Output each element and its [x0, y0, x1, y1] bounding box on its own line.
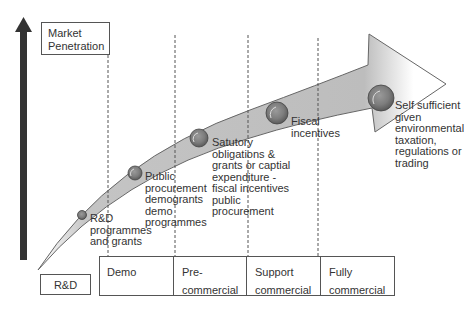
milestone-ball-1	[78, 211, 87, 220]
milestone-ball-4	[266, 102, 288, 124]
stage-support-commercial: Support commercial	[247, 257, 321, 295]
milestone-label-3: Satutory obligations & grants or captial…	[212, 137, 290, 218]
origin-label: R&D	[54, 279, 77, 291]
milestone-label-5: Self sufficient given environmental taxa…	[395, 100, 464, 169]
milestone-label-2: Public procurement demogrants demo progr…	[145, 171, 207, 229]
origin-label-box: R&D	[40, 274, 91, 295]
stage-fully-commercial: Fully commercial	[321, 257, 394, 295]
y-axis-label: Market Penetration	[48, 27, 104, 52]
milestone-label-1: R&D programmes and grants	[90, 213, 152, 248]
milestone-ball-2	[128, 166, 142, 180]
stages-row: Demo Pre- commercial Support commercial …	[99, 256, 395, 296]
stage-demo: Demo	[100, 257, 174, 295]
milestone-ball-5	[368, 85, 394, 111]
market-penetration-arrow	[15, 17, 32, 260]
stage-pre-commercial: Pre- commercial	[174, 257, 247, 295]
milestone-label-4: Fiscal incentives	[291, 116, 340, 139]
milestone-ball-3	[190, 129, 208, 147]
y-axis-label-box: Market Penetration	[41, 22, 110, 55]
